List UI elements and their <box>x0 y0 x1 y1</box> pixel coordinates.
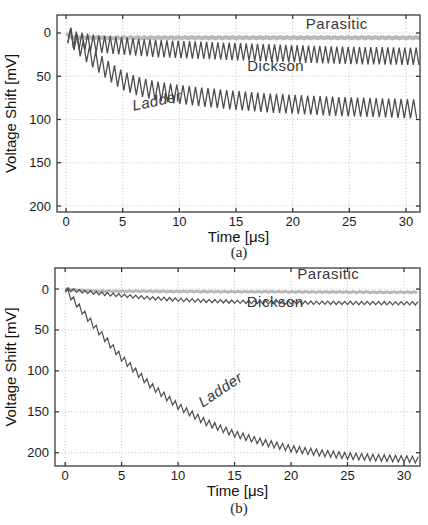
chart-a-caption: (a) <box>0 245 428 263</box>
x-tick-label: 30 <box>399 214 413 229</box>
x-tick-label: 5 <box>119 214 126 229</box>
x-tick-label: 15 <box>227 468 241 483</box>
y-tick-label: 0 <box>44 25 51 40</box>
series-label-dickson: Dickson <box>247 57 304 74</box>
x-tick-label: 10 <box>171 468 185 483</box>
series-dickson <box>68 28 419 65</box>
x-tick-label: 5 <box>118 468 125 483</box>
series-ladder <box>65 289 418 463</box>
series-parasitic <box>66 34 419 39</box>
chart-b-canvas: 051015202530050100150200Time [μs]Voltage… <box>0 263 428 501</box>
x-tick-label: 25 <box>340 468 354 483</box>
y-tick-label: 200 <box>29 199 51 214</box>
y-tick-label: 0 <box>42 282 49 297</box>
series-label-dickson: Dickson <box>247 293 304 310</box>
chart-a-canvas: 051015202530050100150200Time [μs]Voltage… <box>0 0 428 245</box>
tick-marks <box>55 268 420 466</box>
y-tick-label: 50 <box>37 69 51 84</box>
y-tick-label: 150 <box>27 404 49 419</box>
x-axis-label: Time [μs] <box>208 228 269 245</box>
x-tick-label: 15 <box>229 214 243 229</box>
chart-b: 051015202530050100150200Time [μs]Voltage… <box>0 263 428 519</box>
y-tick-label: 150 <box>29 155 51 170</box>
series-label-ladder: Ladder <box>131 87 184 114</box>
x-tick-label: 20 <box>285 214 299 229</box>
figure-page: 051015202530050100150200Time [μs]Voltage… <box>0 0 428 525</box>
chart-b-caption: (b) <box>0 501 428 519</box>
x-tick-label: 30 <box>397 468 411 483</box>
x-axis-label: Time [μs] <box>207 482 268 499</box>
series-label-parasitic: Parasitic <box>306 15 368 32</box>
x-tick-label: 0 <box>62 468 69 483</box>
series-ladder <box>68 28 417 119</box>
y-axis-label: Voltage Shift [mV] <box>2 54 19 173</box>
y-tick-label: 200 <box>27 445 49 460</box>
plot-frame <box>55 268 420 466</box>
x-tick-label: 25 <box>342 214 356 229</box>
x-tick-label: 20 <box>284 468 298 483</box>
x-tick-label: 0 <box>62 214 69 229</box>
series-label-parasitic: Parasitic <box>297 265 359 282</box>
y-tick-label: 100 <box>27 363 49 378</box>
x-tick-label: 10 <box>172 214 186 229</box>
y-axis-label: Voltage Shift [mV] <box>2 307 19 426</box>
y-tick-label: 100 <box>29 112 51 127</box>
chart-a: 051015202530050100150200Time [μs]Voltage… <box>0 0 428 263</box>
y-tick-label: 50 <box>35 322 49 337</box>
grid <box>55 268 420 466</box>
series-label-ladder: Ladder <box>195 368 246 410</box>
